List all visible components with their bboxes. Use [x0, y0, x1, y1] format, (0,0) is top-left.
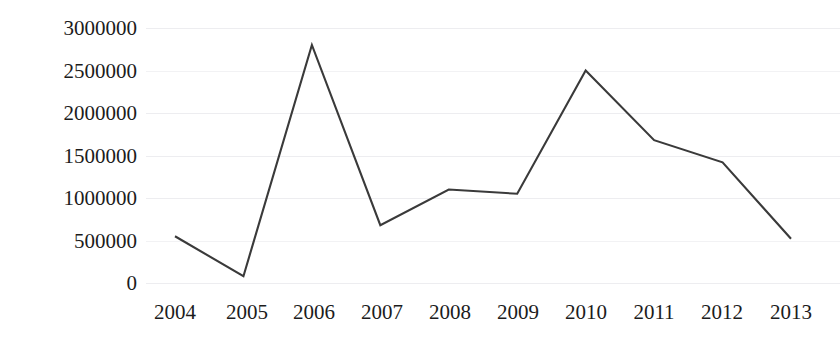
y-tick-label: 1500000 — [64, 145, 138, 166]
series-line — [146, 0, 840, 296]
x-tick-label: 2009 — [497, 302, 539, 323]
y-tick-label: 500000 — [74, 230, 137, 251]
x-tick-label: 2008 — [429, 302, 471, 323]
line-chart: 3000000 2500000 2000000 1500000 1000000 … — [0, 0, 840, 343]
x-tick-label: 2010 — [565, 302, 607, 323]
x-tick-label: 2005 — [226, 302, 268, 323]
y-tick-label: 2500000 — [64, 60, 138, 81]
x-tick-label: 2012 — [701, 302, 743, 323]
y-tick-label: 0 — [127, 273, 138, 294]
y-tick-label: 3000000 — [64, 18, 138, 39]
x-tick-label: 2011 — [633, 302, 674, 323]
y-tick-label: 1000000 — [64, 188, 138, 209]
plot-area — [146, 0, 840, 296]
y-axis: 3000000 2500000 2000000 1500000 1000000 … — [0, 0, 146, 343]
x-tick-label: 2006 — [293, 302, 335, 323]
x-tick-label: 2004 — [154, 302, 196, 323]
x-tick-label: 2013 — [770, 302, 812, 323]
y-tick-label: 2000000 — [64, 103, 138, 124]
x-tick-label: 2007 — [361, 302, 403, 323]
x-axis: 2004 2005 2006 2007 2008 2009 2010 2011 … — [146, 296, 840, 343]
